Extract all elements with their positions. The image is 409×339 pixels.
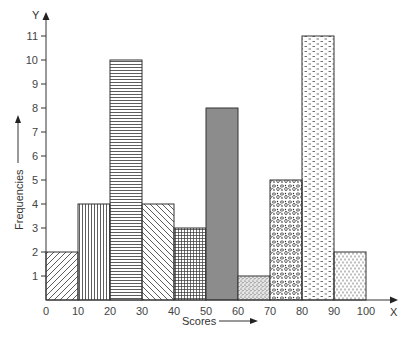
x-tick-label: 80: [296, 305, 308, 317]
histogram-bar-40-50: [174, 228, 206, 300]
x-axis-title: Scores: [182, 315, 258, 327]
y-axis-arrow-icon: [43, 12, 50, 20]
x-tick-label: 0: [43, 305, 49, 317]
histogram-bar-60-70: [238, 276, 270, 300]
histogram-bar-0-10: [46, 252, 78, 300]
y-tick-label: 10: [26, 54, 38, 66]
histogram-bar-30-40: [142, 204, 174, 300]
histogram-bar-90-100: [334, 252, 366, 300]
histogram-bar-50-60: [206, 108, 238, 300]
y-tick-label: 9: [32, 78, 38, 90]
x-tick-label: 40: [168, 305, 180, 317]
y-axis-title: Frequencies: [13, 115, 25, 230]
y-tick-label: 8: [32, 102, 38, 114]
histogram-bar-10-20: [78, 204, 110, 300]
x-tick-label: 10: [72, 305, 84, 317]
x-tick-label: 90: [328, 305, 340, 317]
x-axis-letter: X: [390, 306, 398, 318]
y-tick-label: 2: [32, 246, 38, 258]
x-label-arrow-icon: [250, 318, 258, 324]
y-tick-label: 3: [32, 222, 38, 234]
y-ticks: 1234567891011: [26, 30, 46, 282]
y-tick-label: 4: [32, 198, 38, 210]
x-tick-label: 20: [104, 305, 116, 317]
x-axis-label: Scores: [182, 315, 217, 327]
x-tick-label: 70: [264, 305, 276, 317]
y-axis-label: Frequencies: [13, 169, 25, 230]
histogram-bar-80-90: [302, 36, 334, 300]
y-tick-label: 5: [32, 174, 38, 186]
x-tick-label: 30: [136, 305, 148, 317]
y-tick-label: 11: [27, 30, 38, 42]
histogram-chart: 1234567891011 0102030405060708090100 Y X…: [0, 0, 409, 339]
y-axis-letter: Y: [32, 9, 40, 21]
x-axis-arrow-icon: [390, 297, 398, 304]
x-tick-label: 60: [232, 305, 244, 317]
histogram-bar-70-80: [270, 180, 302, 300]
histogram-bars: [46, 36, 366, 300]
y-tick-label: 7: [32, 126, 38, 138]
histogram-bar-20-30: [110, 60, 142, 300]
y-label-arrow-icon: [15, 115, 21, 123]
y-tick-label: 6: [32, 150, 38, 162]
x-tick-label: 100: [357, 305, 375, 317]
y-tick-label: 1: [32, 270, 38, 282]
